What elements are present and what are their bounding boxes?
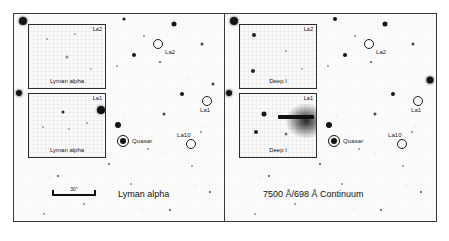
inset-la1-right: La1 Deep I [239,93,317,158]
marker-la10-right [397,139,407,149]
scalebar-tick-right-end [94,190,96,196]
panel-lyman-alpha: La2 Lyman alpha La1 Lyman alpha La2 La1 … [14,14,225,221]
marker-quasar-left [117,135,129,147]
panel-caption-continuum: 7500 Å/698 Å Continuum [263,190,364,199]
panel-caption-lyman-alpha: Lyman alpha [118,190,169,199]
inset-title-la2-right: La2 [304,27,313,33]
inset-caption-la2-right: Deep I [269,78,287,84]
scalebar-label-left: 30" [70,187,77,192]
marker-label-quasar-right: Quasar [343,138,363,144]
astronomical-figure: La2 Lyman alpha La1 Lyman alpha La2 La1 … [0,0,449,241]
marker-la2-left [153,39,163,49]
scalebar-bar-left [52,194,96,196]
inset-title-la1-right: La1 [304,96,313,102]
inset-caption-la1-left: Lyman alpha [50,147,84,153]
two-panel-plate: La2 Lyman alpha La1 Lyman alpha La2 La1 … [13,13,437,222]
inset-title-la1-left: La1 [93,96,102,102]
scalebar-left: 30" [52,185,96,196]
panel-continuum: La2 Deep I La1 Deep I La2 La1 La10 [225,14,436,221]
marker-label-la2-right: La2 [376,49,386,55]
inset-la2-left: La2 Lyman alpha [28,24,106,89]
inset-la2-right: La2 Deep I [239,24,317,89]
marker-label-la1-left: La1 [200,107,210,113]
scalebar-tick-left-end [52,190,54,196]
saturated-source-trail-right [278,115,314,119]
marker-la2-right [364,39,374,49]
marker-label-la10-right: La10 [388,132,402,138]
inset-title-la2-left: La2 [93,27,102,33]
marker-la1-left [202,96,212,106]
inset-caption-la2-left: Lyman alpha [50,78,84,84]
marker-label-la2-left: La2 [165,49,175,55]
marker-la1-right [413,96,423,106]
marker-quasar-right [328,135,340,147]
inset-caption-la1-right: Deep I [269,147,287,153]
marker-label-la10-left: La10 [177,132,191,138]
inset-la1-left: La1 Lyman alpha [28,93,106,158]
marker-la10-left [186,139,196,149]
saturated-source-glow-right [286,104,317,138]
marker-label-quasar-left: Quasar [132,138,152,144]
marker-label-la1-right: La1 [411,107,421,113]
quasar-core-right [331,138,337,144]
quasar-core-left [120,138,126,144]
